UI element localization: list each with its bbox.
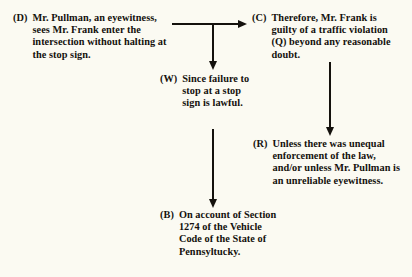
node-data-text: Mr. Pullman, an eyewitness, sees Mr. Fra…: [32, 12, 173, 61]
connector-claim-to-rebuttal-arrowhead-icon: [326, 127, 334, 136]
node-backing-text: On account of Section 1274 of the Vehicl…: [179, 209, 285, 258]
node-rebuttal-tag: (R): [253, 138, 267, 150]
connector-junction-to-warrant-arrowhead-icon: [209, 61, 217, 70]
node-rebuttal-text: Unless there was unequal enforcement of …: [272, 138, 405, 187]
node-claim-tag: (C): [252, 12, 266, 24]
connector-warrant-to-backing-arrowhead-icon: [209, 199, 217, 208]
node-claim-text: Therefore, Mr. Frank is guilty of a traf…: [271, 12, 402, 61]
connector-data-to-claim-line: [172, 23, 238, 25]
node-warrant-tag: (W): [160, 73, 177, 85]
node-backing-tag: (B): [160, 209, 174, 221]
node-claim: (C) Therefore, Mr. Frank is guilty of a …: [252, 12, 402, 61]
node-backing: (B) On account of Section 1274 of the Ve…: [160, 209, 285, 258]
connector-junction-to-warrant-line: [212, 24, 214, 62]
node-data-tag: (D): [13, 12, 27, 24]
node-data: (D) Mr. Pullman, an eyewitness, sees Mr.…: [13, 12, 173, 61]
connector-claim-to-rebuttal-line: [329, 62, 331, 128]
connector-warrant-to-backing-line: [212, 129, 214, 200]
node-rebuttal: (R) Unless there was unequal enforcement…: [253, 138, 405, 187]
connector-data-to-claim-arrowhead-icon: [238, 20, 247, 28]
node-warrant: (W) Since failure to stop at a stop sign…: [160, 73, 255, 110]
argument-diagram: (D) Mr. Pullman, an eyewitness, sees Mr.…: [0, 0, 412, 277]
node-warrant-text: Since failure to stop at a stop sign is …: [182, 73, 255, 110]
